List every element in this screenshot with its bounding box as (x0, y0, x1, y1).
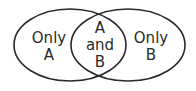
only-b-label-line1: Only (134, 29, 168, 47)
a-and-b-label-line1: A (95, 19, 106, 37)
venn-diagram: Only A A and B Only B (0, 0, 196, 91)
a-and-b-label-line3: B (95, 53, 105, 71)
only-b-label-line2: B (146, 46, 156, 64)
only-a-label-line2: A (44, 46, 55, 64)
only-a-label-line1: Only (32, 29, 66, 47)
a-and-b-label-line2: and (86, 36, 114, 54)
